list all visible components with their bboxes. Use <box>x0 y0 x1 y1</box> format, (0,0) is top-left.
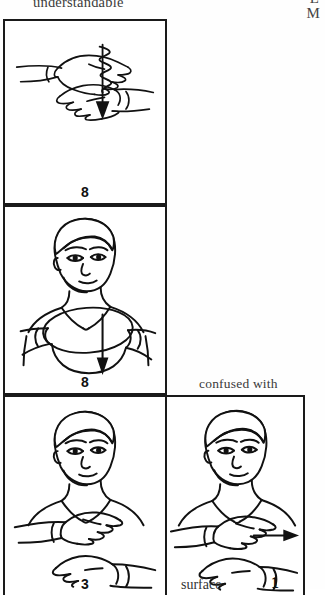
sign-number: 8 <box>5 184 165 200</box>
sign-number: 8 <box>5 374 165 390</box>
illustration-person-oval-hands-down-arrow-icon <box>5 207 165 393</box>
sign-cell-4: surface 1 <box>167 395 305 595</box>
sign-cell-3: 3 <box>3 395 167 595</box>
illustration-person-hands-right-arrow-icon <box>167 397 303 595</box>
sign-number: 1 <box>271 574 303 592</box>
sign-number: 3 <box>5 576 165 592</box>
illustration-person-two-flat-hands-icon <box>5 397 165 595</box>
confused-with-label: confused with <box>199 376 278 392</box>
sign-cell-1: 8 <box>3 19 167 205</box>
page-corner-letter-bottom: M <box>306 5 320 22</box>
sign-cell-2: 8 <box>3 205 167 395</box>
sign-word-label: surface <box>181 577 221 593</box>
illustration-two-flat-hands-wavy-arrow-icon <box>5 21 165 203</box>
headword-understandable: understandable <box>33 0 124 11</box>
